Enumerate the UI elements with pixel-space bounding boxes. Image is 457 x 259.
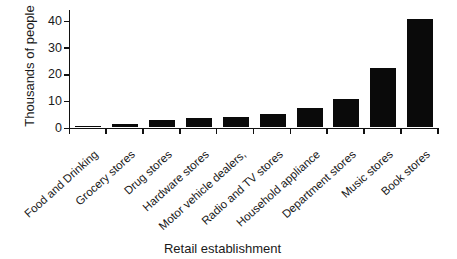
- bar-motor-vehicle-dealers: [223, 117, 249, 128]
- x-tick-mark: [105, 129, 107, 134]
- y-tick-mark: [64, 21, 69, 23]
- x-tick-mark: [326, 129, 328, 134]
- y-tick-mark: [64, 47, 69, 49]
- x-tick-mark: [179, 129, 181, 134]
- x-tick-mark: [400, 129, 402, 134]
- y-tick-label: 20: [0, 67, 62, 82]
- y-tick-label: 10: [0, 94, 62, 109]
- bar-hardware-stores: [186, 118, 212, 127]
- bar-drug-stores: [149, 120, 175, 127]
- bar-grocery-stores: [112, 124, 138, 127]
- bar-department-stores: [333, 99, 359, 127]
- x-tick-mark: [437, 129, 439, 134]
- x-tick-mark: [69, 129, 71, 134]
- bar-food-and-drinking: [75, 126, 101, 127]
- bar-household-appliance: [297, 108, 323, 128]
- x-tick-mark: [142, 129, 144, 134]
- x-tick-mark: [290, 129, 292, 134]
- y-tick-mark: [64, 101, 69, 103]
- y-tick-label: 30: [0, 41, 62, 56]
- x-tick-mark: [253, 129, 255, 134]
- x-tick-mark: [216, 129, 218, 134]
- x-axis-title: Retail establishment: [100, 241, 345, 256]
- y-tick-label: 0: [0, 121, 62, 136]
- bar-music-stores: [370, 68, 396, 128]
- x-tick-mark: [363, 129, 365, 134]
- bar-book-stores: [407, 19, 433, 127]
- bar-chart: Thousands of people 010203040 Food and D…: [0, 0, 457, 259]
- bar-radio-and-tv-stores: [260, 114, 286, 128]
- y-tick-mark: [64, 74, 69, 76]
- y-tick-label: 40: [0, 14, 62, 29]
